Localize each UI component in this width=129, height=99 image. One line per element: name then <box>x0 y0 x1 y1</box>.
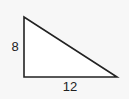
right-triangle <box>24 17 117 77</box>
vertical-leg-label: 8 <box>11 39 18 54</box>
horizontal-leg-label: 12 <box>63 79 77 94</box>
triangle-diagram: 8 12 <box>0 0 129 99</box>
